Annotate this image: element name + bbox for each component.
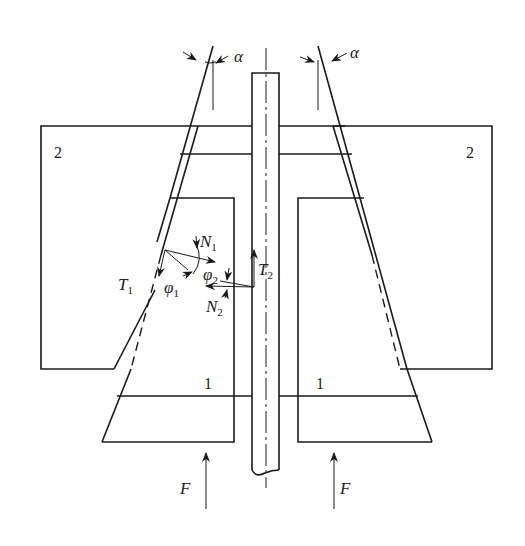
alpha-label-left: α [234,47,244,66]
part-1-label-left: 1 [204,375,212,392]
force-F-label-right: F [339,479,351,498]
phi1-label: φ1 [164,278,179,299]
alpha-angle-right: α [300,43,360,110]
part-1-label-right: 1 [316,375,324,392]
part-2-right-block [333,126,492,369]
N1-label: N1 [199,232,217,253]
T2-label: T2 [258,260,273,281]
N2-label: N2 [205,297,223,318]
force-F-label-left: F [179,479,191,498]
part-1-right-cone [279,46,432,442]
part-2-label-left: 2 [54,144,62,161]
phi2-label: φ2 [203,265,218,286]
alpha-angle-left: α [183,47,244,110]
force-F-right: F [334,453,351,509]
T1-label: T1 [118,275,133,296]
part-2-left-block [41,126,187,369]
part-1-left-cone [102,46,252,442]
part-2-label-right: 2 [466,144,474,161]
cone-clutch-diagram: α α 2 2 1 1 T1 N1 φ1 φ2 T2 N2 F [0,0,525,546]
force-F-left: F [179,453,206,509]
alpha-label-right: α [350,43,360,62]
